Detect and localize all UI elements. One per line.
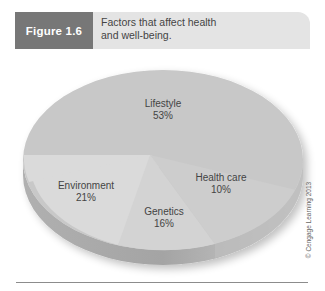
label-environment: Environment 21% <box>58 180 114 204</box>
label-lifestyle: Lifestyle 53% <box>145 98 182 122</box>
label-genetics: Genetics 16% <box>144 206 183 230</box>
bottom-divider <box>16 282 308 283</box>
pie-chart <box>0 0 325 291</box>
copyright-credit: © Cengage Learning 2013 <box>305 182 312 258</box>
label-health-care: Health care 10% <box>195 172 246 196</box>
